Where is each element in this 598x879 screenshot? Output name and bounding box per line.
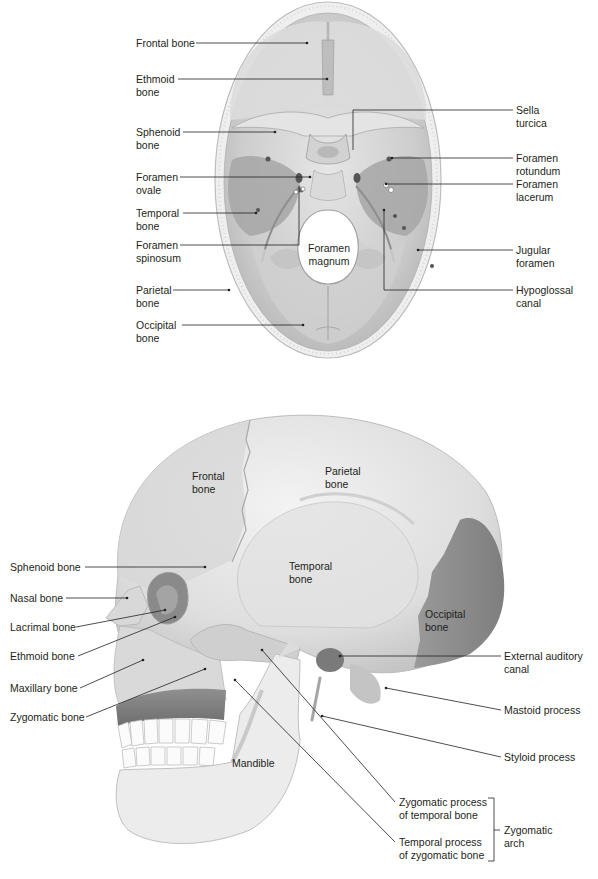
label-foramen-spinosum: Foramen spinosum bbox=[136, 239, 181, 264]
skull-illustration bbox=[0, 0, 598, 879]
label-lat-maxillary-bone: Maxillary bone bbox=[10, 682, 78, 695]
label-mastoid-process: Mastoid process bbox=[504, 704, 580, 717]
cranial-floor-view bbox=[215, 2, 441, 358]
label-lat-nasal-bone: Nasal bone bbox=[10, 592, 63, 605]
label-foramen-lacerum: Foramen lacerum bbox=[516, 178, 558, 203]
ethmoid-crista bbox=[322, 40, 334, 95]
label-lat-sphenoid-bone: Sphenoid bone bbox=[10, 561, 81, 574]
label-sella-turcica: Sella turcica bbox=[516, 104, 547, 129]
foramen-ovale-left bbox=[296, 173, 303, 183]
external-auditory-canal bbox=[316, 648, 344, 672]
label-lat-ethmoid-bone: Ethmoid bone bbox=[10, 650, 75, 663]
label-temporal-process-zygomatic: Temporal process of zygomatic bone bbox=[399, 836, 484, 861]
label-occipital-bone: Occipital bone bbox=[136, 319, 176, 344]
label-parietal-bone: Parietal bone bbox=[136, 284, 172, 309]
label-frontal-bone: Frontal bone bbox=[136, 37, 195, 50]
label-foramen-magnum: Foramen magnum bbox=[302, 242, 356, 267]
label-zygomatic-arch: Zygomatic arch bbox=[504, 824, 552, 849]
label-lat-parietal-bone: Parietal bone bbox=[325, 465, 361, 490]
label-ethmoid-bone: Ethmoid bone bbox=[136, 73, 175, 98]
label-foramen-rotundum: Foramen rotundum bbox=[516, 152, 560, 177]
label-lat-temporal-bone: Temporal bone bbox=[289, 560, 332, 585]
label-hypoglossal-canal: Hypoglossal canal bbox=[516, 284, 573, 309]
label-lat-frontal-bone: Frontal bone bbox=[192, 470, 225, 495]
label-lat-occipital-bone: Occipital bone bbox=[425, 608, 465, 633]
skull-anatomy-figure: Frontal bone Ethmoid bone Sphenoid bone … bbox=[0, 0, 598, 879]
label-lat-lacrimal-bone: Lacrimal bone bbox=[10, 621, 76, 634]
label-temporal-bone: Temporal bone bbox=[136, 207, 179, 232]
label-zygomatic-process-temporal: Zygomatic process of temporal bone bbox=[399, 796, 487, 821]
label-foramen-ovale: Foramen ovale bbox=[136, 171, 178, 196]
label-external-auditory-canal: External auditory canal bbox=[504, 650, 583, 675]
label-jugular-foramen: Jugular foramen bbox=[516, 244, 555, 269]
label-styloid-process: Styloid process bbox=[504, 751, 575, 764]
label-mandible: Mandible bbox=[232, 757, 275, 770]
label-lat-zygomatic-bone: Zygomatic bone bbox=[10, 711, 85, 724]
teeth bbox=[118, 719, 226, 768]
label-sphenoid-bone: Sphenoid bone bbox=[136, 126, 180, 151]
